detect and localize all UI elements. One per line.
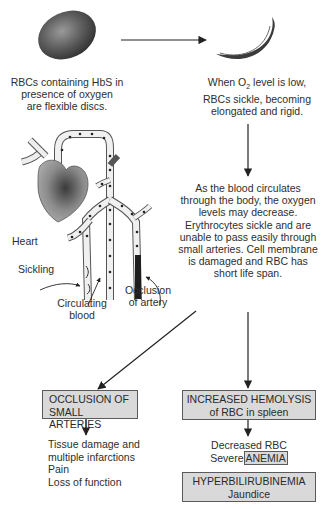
caption-line: elongated and rigid. [192,105,322,117]
anemia-highlight: ANEMIA [244,451,288,465]
caption-text: level is low, [250,76,306,88]
sickling-label: Sickling [18,263,54,275]
box-line: SMALL ARTERIES [49,406,137,431]
occlusion-label: Occlusion of artery [120,284,176,308]
effect-text: Severe [210,452,243,464]
box-line: of RBC in spleen [183,406,315,419]
caption-text: When O [208,76,247,88]
anemia-effects: Decreased RBC SevereANEMIA [196,439,302,465]
effect-line: Tissue damage and [48,438,140,451]
caption-line: are flexible discs. [2,100,132,112]
circulating-blood-label: Circulating blood [52,297,112,321]
text-line: is damaged and RBC has [172,255,324,267]
label-line: of artery [120,296,176,308]
effect-line: Loss of function [48,476,140,489]
box-line: Jaundice [183,488,315,501]
occlusion-box: OCCLUSION OF SMALL ARTERIES [42,390,138,419]
text-line: small arteries. Cell membrane [172,243,324,255]
label-line: Circulating [52,297,112,309]
box-line: INCREASED HEMOLYSIS [183,393,315,406]
arrow-to-occlusion [98,311,196,389]
sickle-cell-caption: When O2 level is low, RBCs sickle, becom… [192,76,322,117]
caption-line: presence of oxygen [2,88,132,100]
heart-label: Heart [12,235,38,247]
caption-line: RBCs sickle, becoming [192,93,322,105]
tissue-effects: Tissue damage and multiple infarctions P… [48,438,140,488]
label-line: Occlusion [120,284,176,296]
caption-line: RBCs containing HbS in [2,76,132,88]
text-line: As the blood circulates [172,182,324,194]
sickle-cell-icon [216,17,275,59]
label-line: blood [52,309,112,321]
caption-line: When O2 level is low, [192,76,322,93]
effect-line: SevereANEMIA [196,452,302,465]
normal-rbc-caption: RBCs containing HbS in presence of oxyge… [2,76,132,112]
normal-rbc-icon [30,1,104,68]
text-line: through the body, the oxygen [172,194,324,206]
effect-line: multiple infarctions [48,451,140,464]
box-line: HYPERBILIRUBINEMIA [183,475,315,488]
box-line: OCCLUSION OF [49,393,137,406]
circulation-text: As the blood circulates through the body… [172,182,324,280]
text-line: short life span. [172,267,324,279]
text-line: levels may decrease. [172,206,324,218]
hemolysis-box: INCREASED HEMOLYSIS of RBC in spleen [182,390,316,420]
text-line: unable to pass easily through [172,231,324,243]
sickling-pointer [40,284,80,290]
effect-line: Pain [48,463,140,476]
hyperbilirubinemia-box: HYPERBILIRUBINEMIA Jaundice [182,472,316,502]
text-line: Erythrocytes sickle and are [172,219,324,231]
